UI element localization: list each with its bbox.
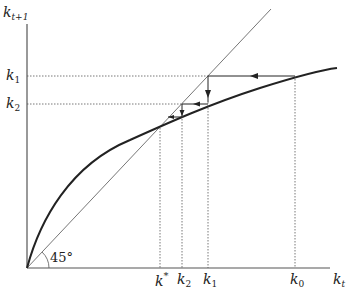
45-degree-line: [27, 9, 271, 268]
y-tick-k2: k2: [6, 95, 20, 113]
x-tick-k2: k2: [177, 271, 191, 289]
angle-label: 45°: [50, 250, 73, 265]
x-axis-label: kt: [333, 271, 345, 289]
x-tick-k0: k0: [290, 271, 304, 289]
arrowhead-down-1: [205, 90, 211, 98]
cobweb-path: [168, 73, 295, 119]
arrowhead-down-2: [180, 110, 185, 116]
axes: [27, 24, 330, 268]
arrowhead-left-1: [250, 73, 258, 79]
angle-arc: [42, 252, 49, 268]
x-tick-kstar: k*: [155, 270, 168, 289]
y-axis-label: kt+1: [3, 4, 28, 22]
x-tick-k1: k1: [203, 271, 217, 289]
phase-diagram: kt+1 k1 k2 k* k2 k1 k0 kt 45°: [0, 0, 346, 291]
y-tick-k1: k1: [6, 67, 20, 85]
dotted-guides: [27, 76, 295, 268]
arrowhead-left-2: [193, 102, 200, 107]
